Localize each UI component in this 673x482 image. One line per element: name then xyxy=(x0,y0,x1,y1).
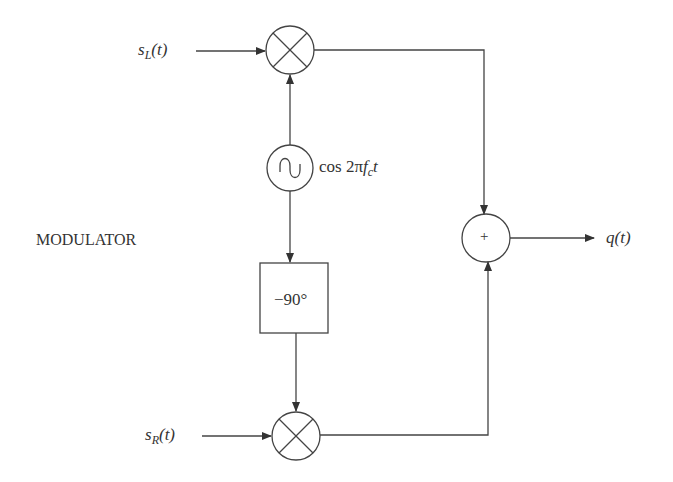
phase-shift-label: −90° xyxy=(274,291,307,308)
oscillator xyxy=(267,145,313,191)
modulator-title: MODULATOR xyxy=(36,232,136,248)
bottom-multiplier xyxy=(272,412,320,460)
top-to-adder-path xyxy=(314,50,484,214)
output-label: q(t) xyxy=(606,229,631,246)
bottom-to-adder-path xyxy=(320,262,488,435)
oscillator-label: cos 2πfct xyxy=(319,158,378,178)
sine-wave-icon xyxy=(280,159,300,178)
sl-input-label: sL(t) xyxy=(138,41,167,61)
top-multiplier xyxy=(266,26,314,74)
adder-plus-symbol: + xyxy=(480,229,488,244)
sr-input-label: sR(t) xyxy=(145,426,175,446)
